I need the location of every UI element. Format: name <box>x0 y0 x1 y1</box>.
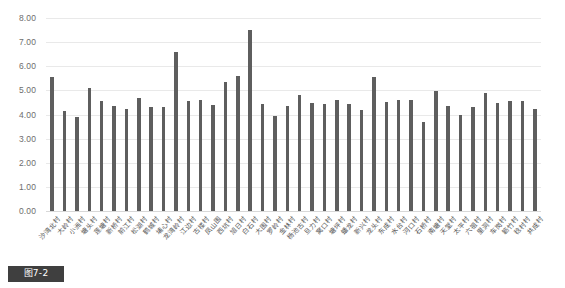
bar <box>446 106 449 211</box>
bar <box>137 98 140 211</box>
bar <box>471 107 474 211</box>
figure-container: 8.007.006.005.004.003.002.001.000.00 沙湾北… <box>0 0 565 288</box>
bar <box>162 107 165 211</box>
bar <box>422 122 425 211</box>
bar <box>261 104 264 211</box>
bar <box>409 100 412 211</box>
bar <box>323 104 326 211</box>
bar <box>484 93 487 211</box>
bar <box>211 105 214 211</box>
bar <box>125 109 128 211</box>
bar-chart: 8.007.006.005.004.003.002.001.000.00 沙湾北… <box>0 0 565 258</box>
y-axis: 8.007.006.005.004.003.002.001.000.00 <box>0 18 42 211</box>
bar <box>372 77 375 211</box>
bar <box>310 103 313 211</box>
y-tick-label: 7.00 <box>19 37 36 47</box>
bar <box>75 117 78 211</box>
y-tick-label: 6.00 <box>19 61 36 71</box>
bar <box>298 95 301 211</box>
y-tick-label: 2.00 <box>19 158 36 168</box>
bar <box>397 100 400 211</box>
bar <box>224 82 227 211</box>
bar <box>533 109 536 211</box>
figure-caption-badge: 图7-2 <box>8 266 64 282</box>
bar <box>360 110 363 211</box>
y-tick-label: 3.00 <box>19 134 36 144</box>
bar <box>199 100 202 211</box>
bar <box>236 76 239 211</box>
plot-region <box>46 18 541 211</box>
y-tick-label: 8.00 <box>19 13 36 23</box>
bars-layer <box>46 18 541 211</box>
bar <box>273 116 276 211</box>
bar <box>459 115 462 211</box>
y-tick-label: 5.00 <box>19 85 36 95</box>
bar <box>521 101 524 211</box>
bar <box>335 100 338 211</box>
bar <box>434 91 437 211</box>
y-tick-label: 4.00 <box>19 110 36 120</box>
bar <box>248 30 251 211</box>
bar <box>63 111 66 211</box>
bar <box>385 102 388 211</box>
bar <box>508 101 511 211</box>
x-axis: 沙湾北村大岭村小洲村塘头村莲塘村新桥村前江村松湖村鹤城村埔心村龙湾岭村江边村古楼… <box>46 212 541 274</box>
bar <box>496 103 499 211</box>
bar <box>112 106 115 211</box>
bar <box>174 52 177 211</box>
bar <box>149 107 152 211</box>
bar <box>50 77 53 211</box>
y-tick-label: 0.00 <box>19 206 36 216</box>
bar <box>347 104 350 211</box>
bar <box>286 106 289 211</box>
bar <box>100 101 103 211</box>
y-tick-label: 1.00 <box>19 182 36 192</box>
bar <box>187 101 190 211</box>
bar <box>88 88 91 211</box>
